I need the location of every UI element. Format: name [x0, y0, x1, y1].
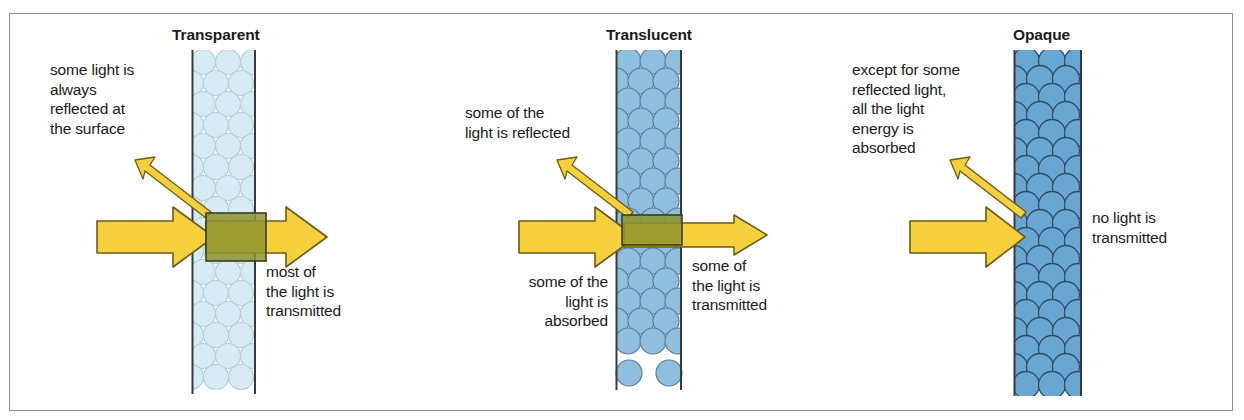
- panel-title-translucent: Translucent: [606, 26, 692, 44]
- absorbed-overlap-region: [205, 212, 267, 262]
- incident-light-arrow: [908, 205, 1028, 269]
- caption-transmitted-transparent: most of the light is transmitted: [266, 262, 406, 321]
- panel-title-transparent: Transparent: [172, 26, 260, 44]
- caption-absorbed-opaque: except for some reflected light, all the…: [852, 60, 1022, 158]
- absorbed-overlap-region: [621, 214, 683, 246]
- caption-transmitted-translucent: some of the light is transmitted: [692, 256, 832, 315]
- caption-reflected-translucent: some of the light is reflected: [465, 103, 625, 142]
- caption-absorbed-translucent: some of the light is absorbed: [460, 272, 608, 331]
- incident-light-arrow: [95, 205, 217, 269]
- panel-transparent: Transparent: [0, 0, 420, 420]
- light-transmission-diagram: Transparent: [0, 0, 1244, 420]
- panel-title-opaque: Opaque: [1013, 26, 1070, 44]
- caption-no-transmission-opaque: no light is transmitted: [1092, 208, 1232, 247]
- caption-reflected-transparent: some light is always reflected at the su…: [50, 60, 200, 138]
- panel-opaque: Opaque: [820, 0, 1244, 420]
- panel-translucent: Translucent: [420, 0, 840, 420]
